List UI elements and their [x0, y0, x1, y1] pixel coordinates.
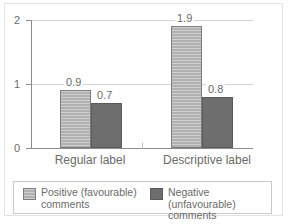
bar-descriptive-positive: [171, 26, 202, 148]
legend-swatch-negative-icon: [150, 188, 163, 200]
legend-label-positive: Positive (favourable) comments: [41, 187, 137, 210]
value-label-regular-positive: 0.9: [64, 77, 83, 88]
value-label-descriptive-positive: 1.9: [175, 13, 194, 24]
bar-chart-figure: 2 1 0 0.9 0.7 1.9 0.8 Regular label Desc…: [0, 0, 288, 224]
x-category-label-descriptive: Descriptive label: [152, 153, 262, 167]
y-tick-label-2: 2: [14, 15, 20, 26]
value-label-regular-negative: 0.7: [95, 90, 114, 101]
bar-regular-positive: [60, 90, 91, 148]
x-category-label-regular: Regular label: [40, 153, 140, 167]
bar-descriptive-negative: [202, 97, 233, 148]
legend-item-positive: Positive (favourable) comments: [23, 187, 137, 210]
chart-legend: Positive (favourable) comments Negative …: [13, 181, 272, 214]
y-tick-0: [26, 148, 31, 149]
value-label-descriptive-negative: 0.8: [206, 84, 225, 95]
legend-label-negative: Negative (unfavourable) comments: [168, 187, 271, 222]
bar-regular-negative: [91, 103, 122, 148]
legend-item-negative: Negative (unfavourable) comments: [150, 187, 271, 222]
y-tick-label-1: 1: [14, 79, 20, 90]
legend-swatch-positive-icon: [23, 188, 36, 200]
y-tick-label-0: 0: [14, 143, 20, 154]
plot-area: 0.9 0.7 1.9 0.8: [31, 20, 253, 148]
